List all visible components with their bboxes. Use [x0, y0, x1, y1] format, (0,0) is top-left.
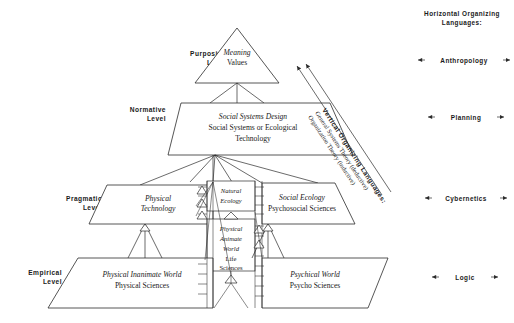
level-pragmatic-line1: Pragmatic: [66, 195, 102, 203]
hol-title-line1: Horizontal Organizing: [424, 10, 500, 18]
node-physical-inanimate-line2: Physical Sciences: [115, 281, 169, 290]
node-natural-ecology: [207, 181, 255, 211]
node-physical-animate-line5: Sciences: [219, 264, 243, 271]
node-normative-line3: Technology: [235, 134, 271, 143]
hol-planning-label: Planning: [451, 114, 482, 122]
level-label-empirical: Empirical Level: [28, 269, 62, 285]
diagram-canvas: Purposive Level Normative Level Pragmati…: [0, 0, 514, 323]
level-empirical-line1: Empirical: [28, 269, 62, 277]
node-normative-line2: Social Systems or Ecological: [209, 123, 298, 132]
node-natural-ecology-line2: Ecology: [219, 197, 242, 204]
hol-item-planning: Planning: [428, 114, 504, 122]
node-apex-line1: Meaning: [223, 48, 251, 57]
node-physical-inanimate-line1: Physical Inanimate World: [101, 270, 181, 279]
level-normative-line2: Level: [147, 115, 166, 122]
hol-item-logic: Logic: [432, 274, 498, 282]
apex-to-normative-links: [210, 83, 264, 103]
level-normative-line1: Normative: [130, 106, 166, 113]
node-physical-technology-line2: Technology: [141, 204, 176, 213]
node-psychical-line1: Psychical World: [289, 270, 340, 279]
node-physical-technology-line1: Physical: [144, 194, 171, 203]
level-empirical-line2: Level: [43, 278, 62, 285]
node-social-ecology-line1: Social Ecology: [279, 193, 325, 202]
node-normative-line1: Social Systems Design: [219, 112, 288, 121]
node-social-ecology-line2: Psychosocial Sciences: [268, 204, 336, 213]
systems-hierarchy-diagram: Purposive Level Normative Level Pragmati…: [0, 0, 514, 323]
hol-anthropology-label: Anthropology: [440, 57, 487, 65]
node-psychical-line2: Psycho Sciences: [290, 281, 340, 290]
normative-to-pragmatic-links: [140, 155, 318, 185]
hol-logic-label: Logic: [455, 274, 474, 282]
hol-item-cybernetics: Cybernetics: [425, 195, 507, 203]
node-apex-line2: Values: [227, 58, 247, 67]
hol-item-anthropology: Anthropology: [418, 57, 510, 65]
hol-cybernetics-label: Cybernetics: [445, 195, 487, 203]
node-physical-animate-line2: Animate: [219, 235, 242, 242]
level-label-normative: Normative Level: [130, 106, 166, 122]
hol-title-line2-visible: Languages:: [442, 19, 482, 27]
connector-triangle-ecology: [224, 212, 238, 219]
node-natural-ecology-line1: Natural: [220, 187, 242, 194]
